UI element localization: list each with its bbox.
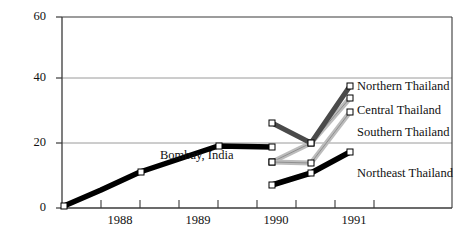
series-label-bombay-india: Bombay, India: [160, 148, 233, 163]
marker-northeast-1: [308, 170, 314, 176]
marker-bombay-3: [269, 144, 275, 150]
y-axis-ticks: [56, 17, 62, 208]
y-axis-label-0: 0: [12, 200, 46, 215]
y-axis-label-20: 20: [12, 135, 46, 150]
chart-container: 60 40 20 0 1988 1989 1990 1991 Northern …: [0, 0, 462, 237]
marker-southern-2: [347, 109, 353, 115]
x-axis-label-1989: 1989: [163, 213, 233, 228]
marker-northern-0: [269, 120, 275, 126]
marker-northern-2: [347, 83, 353, 89]
series-label-southern-thailand: Southern Thailand: [357, 125, 449, 140]
series-bombay-india: [61, 130, 275, 209]
x-axis-ticks: [101, 200, 374, 208]
series-label-northeast-thailand: Northeast Thailand: [357, 166, 453, 181]
series-northern-thailand: [269, 83, 353, 146]
marker-southern-0: [269, 159, 275, 165]
marker-northern-1: [308, 140, 314, 146]
marker-central-2: [347, 95, 353, 101]
series-label-northern-thailand: Northern Thailand: [357, 79, 449, 94]
x-axis-label-1990: 1990: [241, 213, 311, 228]
chart-plot-area: [0, 0, 462, 237]
marker-northeast-0: [269, 182, 275, 188]
x-axis-label-1988: 1988: [85, 213, 155, 228]
x-axis-label-1991: 1991: [319, 213, 389, 228]
marker-northeast-2: [347, 149, 353, 155]
y-axis-label-40: 40: [12, 70, 46, 85]
marker-bombay-0: [61, 203, 67, 209]
marker-southern-1: [308, 160, 314, 166]
series-label-central-thailand: Central Thailand: [357, 103, 441, 118]
y-axis-label-60: 60: [12, 9, 46, 24]
marker-bombay-1: [138, 169, 144, 175]
